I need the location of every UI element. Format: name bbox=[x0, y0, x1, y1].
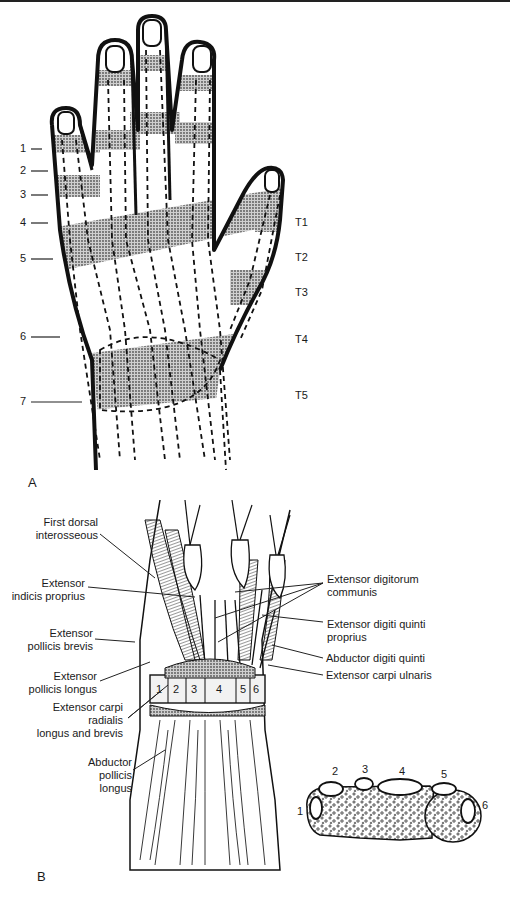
label-line: interosseous bbox=[36, 529, 98, 542]
compartment-number-1: 1 bbox=[156, 683, 162, 696]
hand-zones-illustration bbox=[0, 0, 510, 901]
label-line: pollicis longus bbox=[29, 683, 97, 696]
compartment-number-4: 4 bbox=[216, 683, 222, 696]
zone-label-7: 7 bbox=[20, 395, 26, 408]
panel-letter-b: B bbox=[37, 869, 46, 884]
thumb-zone-label-t3: T3 bbox=[295, 286, 308, 299]
compartment-number-6: 6 bbox=[253, 683, 259, 696]
label-extensor-carpi-ulnaris: Extensor carpi ulnaris bbox=[326, 669, 432, 682]
label-abductor-digiti-quinti: Abductor digiti quinti bbox=[326, 652, 425, 665]
cross-section-number-6: 6 bbox=[482, 799, 488, 812]
label-line: indicis proprius bbox=[12, 590, 85, 603]
compartment-number-5: 5 bbox=[240, 683, 246, 696]
cross-section-number-3: 3 bbox=[362, 763, 368, 776]
label-extensor-indicis-proprius: Extensor indicis proprius bbox=[12, 577, 85, 603]
cross-section-number-4: 4 bbox=[399, 765, 405, 778]
label-extensor-pollicis-brevis: Extensor pollicis brevis bbox=[28, 627, 93, 653]
zone-label-4: 4 bbox=[20, 216, 26, 229]
label-line: radialis bbox=[37, 714, 123, 727]
label-extensor-digitorum-communis: Extensor digitorum communis bbox=[327, 573, 419, 599]
cross-section-number-2: 2 bbox=[332, 765, 338, 778]
label-line: Extensor bbox=[28, 627, 93, 640]
label-extensor-pollicis-longus: Extensor pollicis longus bbox=[29, 670, 97, 696]
cross-section-number-1: 1 bbox=[297, 805, 303, 818]
cross-section-number-5: 5 bbox=[441, 768, 447, 781]
label-line: Extensor digitorum bbox=[327, 573, 419, 586]
wrist-cross-section bbox=[307, 778, 481, 842]
compartment-number-2: 2 bbox=[173, 683, 179, 696]
compartment-number-3: 3 bbox=[191, 683, 197, 696]
label-line: longus bbox=[88, 782, 132, 795]
label-line: First dorsal bbox=[36, 516, 98, 529]
label-line: pollicis brevis bbox=[28, 640, 93, 653]
label-line: longus and brevis bbox=[37, 727, 123, 740]
label-line: Extensor carpi bbox=[37, 701, 123, 714]
zone-label-5: 5 bbox=[20, 252, 26, 265]
thumb-zone-label-t1: T1 bbox=[295, 216, 308, 229]
label-line: Extensor bbox=[12, 577, 85, 590]
label-line: Extensor bbox=[29, 670, 97, 683]
label-first-dorsal-interosseous: First dorsal interosseous bbox=[36, 516, 98, 542]
label-extensor-digiti-quinti-proprius: Extensor digiti quinti proprius bbox=[327, 618, 425, 644]
label-line: communis bbox=[327, 586, 419, 599]
label-extensor-carpi-radialis: Extensor carpi radialis longus and brevi… bbox=[37, 701, 123, 740]
zone-label-1: 1 bbox=[20, 142, 26, 155]
panel-letter-a: A bbox=[28, 475, 37, 490]
label-line: pollicis bbox=[88, 769, 132, 782]
zone-label-6: 6 bbox=[20, 330, 26, 343]
zone-label-3: 3 bbox=[20, 188, 26, 201]
label-line: proprius bbox=[327, 631, 425, 644]
label-line: Abductor bbox=[88, 756, 132, 769]
thumb-zone-label-t5: T5 bbox=[295, 389, 308, 402]
thumb-zone-label-t4: T4 bbox=[295, 333, 308, 346]
label-line: Extensor digiti quinti bbox=[327, 618, 425, 631]
zone-label-2: 2 bbox=[20, 164, 26, 177]
label-abductor-pollicis-longus: Abductor pollicis longus bbox=[88, 756, 132, 795]
thumb-zone-label-t2: T2 bbox=[295, 251, 308, 264]
